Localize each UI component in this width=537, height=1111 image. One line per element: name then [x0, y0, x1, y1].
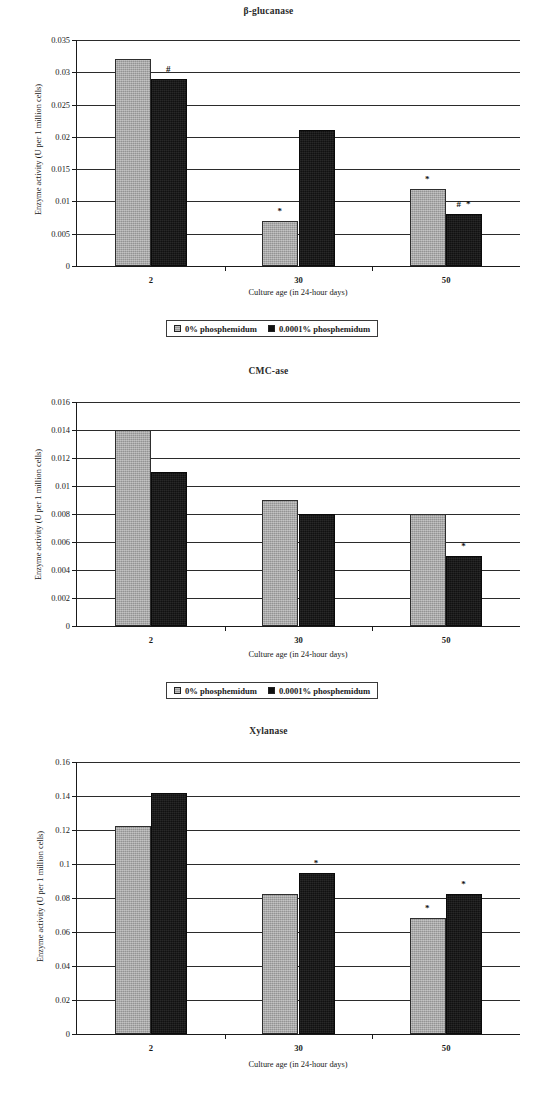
legend-swatch-black-icon	[268, 325, 275, 332]
y-axis-tick	[72, 137, 77, 138]
bar-series-0-30	[262, 500, 298, 626]
bar-series-1-2	[151, 472, 187, 626]
legend: 0% phosphemidum 0.0001% phosphemidum	[166, 320, 378, 337]
gridline	[77, 402, 520, 403]
bar-series-0-2	[115, 826, 151, 1034]
bar-series-0-2	[115, 430, 151, 626]
y-axis-tick-label: 0.04	[55, 962, 70, 971]
x-axis-category-label: 2	[149, 635, 153, 645]
legend-label-series-1: 0.0001% phosphemidum	[279, 686, 370, 696]
y-axis-tick-label: 0.01	[55, 197, 70, 206]
y-axis-tick-label: 0.08	[55, 894, 70, 903]
y-axis-tick-label: 0.006	[51, 538, 70, 547]
y-axis-tick	[72, 542, 77, 543]
y-axis-tick-label: 0.025	[51, 100, 70, 109]
bar-series-1-2	[151, 793, 187, 1034]
y-axis-tick	[72, 762, 77, 763]
legend-entry-series-1: 0.0001% phosphemidum	[268, 686, 370, 696]
legend: 0% phosphemidum 0.0001% phosphemidum	[166, 682, 378, 699]
y-axis-tick	[72, 966, 77, 967]
y-axis-tick	[72, 402, 77, 403]
x-axis-title: Culture age (in 24-hour days)	[76, 650, 520, 659]
y-axis-tick-label: 0.014	[51, 426, 70, 435]
y-axis-tick-label: 0	[66, 622, 70, 631]
gridline	[77, 266, 520, 267]
x-axis-category-label: 2	[149, 275, 153, 285]
y-axis-title: Enzyme activity (U per 1 million cells)	[34, 415, 43, 615]
y-axis-tick-label: 0.035	[51, 36, 70, 45]
bar-series-1-50	[446, 894, 482, 1034]
bar-series-0-30	[262, 894, 298, 1034]
x-axis-title: Culture age (in 24-hour days)	[76, 288, 520, 297]
y-axis-tick-label: 0.002	[51, 594, 70, 603]
y-axis-tick-label: 0	[66, 1030, 70, 1039]
y-axis-tick	[72, 40, 77, 41]
y-axis-tick	[72, 201, 77, 202]
legend-swatch-gray-icon	[174, 687, 181, 694]
legend-swatch-black-icon	[268, 687, 275, 694]
gridline	[77, 1034, 520, 1035]
legend-entry-series-0: 0% phosphemidum	[174, 324, 257, 334]
x-axis-category-label: 30	[294, 1043, 303, 1053]
y-axis-tick-label: 0.015	[51, 165, 70, 174]
legend-entry-series-1: 0.0001% phosphemidum	[268, 324, 370, 334]
x-axis-tick	[372, 266, 373, 271]
bar-series-1-50	[446, 556, 482, 626]
y-axis-tick	[72, 72, 77, 73]
y-axis-tick-label: 0.02	[55, 132, 70, 141]
x-axis-title: Culture age (in 24-hour days)	[76, 1060, 520, 1069]
plot-frame: 00.0050.010.0150.020.0250.030.035#2*30*#…	[76, 40, 520, 266]
bar-series-0-2	[115, 59, 151, 266]
y-axis-tick-label: 0.008	[51, 510, 70, 519]
y-axis-tick	[72, 796, 77, 797]
x-axis-category-label: 30	[294, 275, 303, 285]
y-axis-tick	[72, 598, 77, 599]
plot-frame: 00.0020.0040.0060.0080.010.0120.0140.016…	[76, 402, 520, 626]
y-axis-tick-label: 0.01	[55, 482, 70, 491]
y-axis-tick-label: 0.1	[60, 860, 70, 869]
y-axis-tick	[72, 1000, 77, 1001]
bar-series-1-2	[151, 79, 187, 266]
y-axis-tick-label: 0.012	[51, 454, 70, 463]
y-axis-tick	[72, 234, 77, 235]
chart-beta-glucanase: β-glucanase Enzyme activity (U per 1 mil…	[0, 0, 537, 360]
y-axis-tick-label: 0.03	[55, 68, 70, 77]
significance-marker: *	[425, 175, 431, 184]
legend-label-series-0: 0% phosphemidum	[185, 324, 257, 334]
y-axis-tick	[72, 105, 77, 106]
bar-series-0-50	[410, 189, 446, 266]
y-axis-tick-label: 0.06	[55, 928, 70, 937]
y-axis-title: Enzyme activity (U per 1 million cells)	[34, 50, 43, 250]
gridline	[77, 40, 520, 41]
y-axis-tick	[72, 570, 77, 571]
x-axis-tick	[372, 626, 373, 631]
y-axis-tick	[72, 830, 77, 831]
y-axis-tick	[72, 266, 77, 267]
y-axis-tick	[72, 430, 77, 431]
legend-label-series-1: 0.0001% phosphemidum	[279, 324, 370, 334]
plot-frame: 00.020.040.060.080.10.120.140.162*30**50	[76, 762, 520, 1034]
significance-marker: *	[277, 207, 283, 216]
x-axis-category-label: 50	[442, 635, 451, 645]
chart-title: Xylanase	[0, 726, 537, 736]
y-axis-tick	[72, 898, 77, 899]
legend-label-series-0: 0% phosphemidum	[185, 686, 257, 696]
x-axis-category-label: 50	[442, 1043, 451, 1053]
y-axis-tick-label: 0.14	[55, 792, 70, 801]
gridline	[77, 796, 520, 797]
chart-title: β-glucanase	[0, 6, 537, 16]
significance-marker: #	[166, 65, 172, 74]
y-axis-tick-label: 0.004	[51, 566, 70, 575]
legend-swatch-gray-icon	[174, 325, 181, 332]
y-axis-tick	[72, 169, 77, 170]
chart-xylanase: Xylanase Enzyme activity (U per 1 millio…	[0, 720, 537, 1111]
y-axis-tick	[72, 1034, 77, 1035]
x-axis-tick	[225, 1034, 226, 1039]
x-axis-tick	[225, 266, 226, 271]
gridline	[77, 626, 520, 627]
y-axis-tick-label: 0	[66, 262, 70, 271]
x-axis-tick	[372, 1034, 373, 1039]
legend-entry-series-0: 0% phosphemidum	[174, 686, 257, 696]
significance-marker: *	[425, 904, 431, 913]
significance-marker: *	[461, 542, 467, 551]
